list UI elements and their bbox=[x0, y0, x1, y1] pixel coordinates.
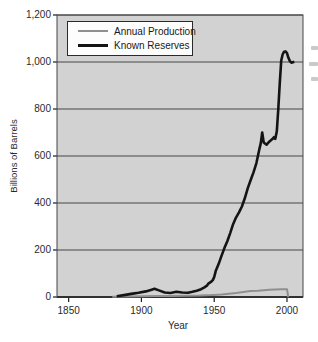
oil-reserves-chart-figure: Billions of Barrels Year Annual Producti… bbox=[0, 0, 318, 342]
legend: Annual Production Known Reserves bbox=[67, 21, 193, 56]
y-tick-label-200: 200 bbox=[0, 244, 51, 256]
x-axis-title: Year bbox=[148, 319, 208, 332]
y-tick-label-400: 400 bbox=[0, 197, 51, 209]
x-tick-label-1850: 1850 bbox=[51, 305, 87, 317]
y-tick-label-1000: 1,000 bbox=[0, 56, 51, 68]
y-tick-label-600: 600 bbox=[0, 150, 51, 162]
legend-label-known-reserves: Known Reserves bbox=[114, 40, 190, 51]
known-reserves-line-sample-icon bbox=[78, 44, 108, 47]
cropped-edge-artifact bbox=[311, 46, 318, 50]
annual-production-line-sample-icon bbox=[78, 30, 108, 32]
x-tick-label-1900: 1900 bbox=[123, 305, 159, 317]
cropped-edge-artifact bbox=[309, 62, 318, 66]
legend-item-known-reserves: Known Reserves bbox=[68, 40, 192, 51]
y-tick-label-1200: 1,200 bbox=[0, 9, 51, 21]
cropped-edge-artifact bbox=[311, 77, 318, 81]
y-tick-label-0: 0 bbox=[0, 291, 51, 303]
x-tick-label-2000: 2000 bbox=[269, 305, 305, 317]
x-tick-label-1950: 1950 bbox=[196, 305, 232, 317]
y-tick-label-800: 800 bbox=[0, 103, 51, 115]
legend-label-annual-production: Annual Production bbox=[114, 26, 196, 37]
legend-item-annual-production: Annual Production bbox=[68, 26, 192, 37]
